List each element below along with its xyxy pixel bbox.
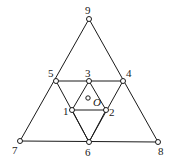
- center-point-o: [86, 96, 90, 100]
- node-6: [87, 140, 92, 145]
- nodes-group: 123456789: [12, 4, 164, 158]
- center-point-group: O: [86, 96, 101, 108]
- node-5: [54, 79, 59, 84]
- center-label-o: O: [93, 96, 101, 108]
- node-label-6: 6: [85, 146, 91, 158]
- node-label-3: 3: [85, 67, 91, 79]
- edge-2-6: [89, 110, 106, 142]
- node-4: [121, 79, 126, 84]
- node-3: [87, 79, 92, 84]
- edge-3-1: [72, 81, 89, 110]
- node-7: [18, 139, 23, 144]
- node-8: [156, 140, 161, 145]
- edge-1-6: [72, 110, 89, 142]
- node-label-7: 7: [12, 144, 18, 156]
- node-label-1: 1: [63, 105, 69, 117]
- graph-diagram: 123456789 O: [0, 0, 180, 164]
- node-label-8: 8: [158, 145, 164, 157]
- node-label-5: 5: [48, 67, 54, 79]
- node-1: [70, 108, 75, 113]
- node-label-4: 4: [126, 67, 132, 79]
- node-2: [104, 108, 109, 113]
- node-label-2: 2: [109, 106, 115, 118]
- node-9: [87, 17, 92, 22]
- node-label-9: 9: [85, 4, 91, 16]
